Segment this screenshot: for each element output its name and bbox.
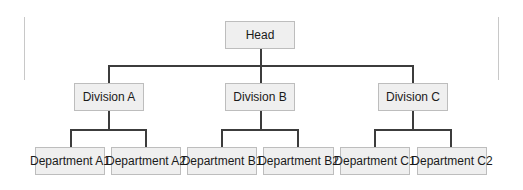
node-department-a1: Department A1 bbox=[35, 147, 105, 175]
connector-dept-c1-up bbox=[374, 129, 376, 147]
node-division-c: Division C bbox=[378, 83, 448, 111]
connector-division-c-up bbox=[412, 65, 414, 83]
node-division-a: Division A bbox=[74, 83, 144, 111]
connector-departments-c-bar bbox=[374, 129, 452, 131]
connector-division-a-down bbox=[108, 111, 110, 130]
node-department-b2: Department B2 bbox=[263, 147, 334, 175]
connector-dept-a1-up bbox=[70, 129, 72, 147]
connector-dept-a2-up bbox=[145, 129, 147, 147]
node-head: Head bbox=[225, 21, 295, 49]
connector-departments-b-bar bbox=[221, 129, 299, 131]
connector-division-c-down bbox=[412, 111, 414, 130]
left-border-rule bbox=[24, 17, 25, 80]
node-department-a2: Department A2 bbox=[111, 147, 181, 175]
connector-division-a-up bbox=[108, 65, 110, 83]
node-department-b1: Department B1 bbox=[187, 147, 257, 175]
connector-division-b-up bbox=[260, 65, 262, 83]
node-department-c2: Department C2 bbox=[417, 147, 487, 175]
node-division-b: Division B bbox=[225, 83, 295, 111]
connector-dept-b1-up bbox=[221, 129, 223, 147]
right-border-rule bbox=[498, 17, 499, 80]
node-department-c1: Department C1 bbox=[340, 147, 410, 175]
connector-division-b-down bbox=[260, 111, 262, 130]
connector-departments-a-bar bbox=[70, 129, 147, 131]
connector-dept-c2-up bbox=[450, 129, 452, 147]
connector-dept-b2-up bbox=[297, 129, 299, 147]
